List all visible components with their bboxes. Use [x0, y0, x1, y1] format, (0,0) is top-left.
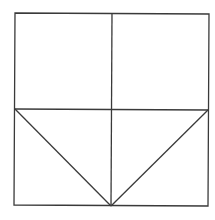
horizontal-midline	[15, 109, 208, 110]
right-diagonal	[111, 110, 208, 206]
geometric-figure	[0, 0, 215, 220]
left-diagonal	[15, 109, 111, 206]
division-lines	[15, 13, 208, 206]
